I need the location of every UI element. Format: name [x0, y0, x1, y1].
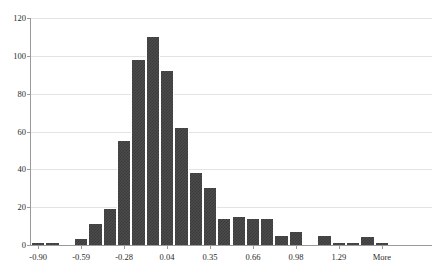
histogram-bar	[88, 224, 102, 245]
histogram-bar	[203, 188, 217, 245]
x-axis-tick-label: 1.29	[331, 253, 346, 262]
y-axis-tick-mark	[27, 18, 30, 19]
histogram-bar	[189, 173, 203, 245]
y-axis-tick-label: 80	[18, 89, 27, 98]
y-axis-tick-label: 60	[18, 127, 27, 136]
histogram-bar	[274, 236, 288, 245]
x-axis-tick-label: 0.04	[160, 253, 175, 262]
x-axis-tick-label: 0.35	[203, 253, 218, 262]
x-axis-tick-mark	[296, 246, 297, 249]
y-axis-tick-label: 40	[18, 165, 27, 174]
histogram-bar	[360, 237, 374, 245]
y-axis-tick-mark	[27, 207, 30, 208]
histogram-bar	[160, 71, 174, 245]
y-axis-tick-label: 100	[13, 52, 26, 61]
y-axis-tick-mark	[27, 94, 30, 95]
histogram-bar	[246, 219, 260, 245]
y-axis-tick-mark	[27, 56, 30, 57]
histogram-bar	[232, 217, 246, 245]
histogram-bar	[260, 219, 274, 245]
y-axis: 020406080100120	[0, 0, 30, 276]
x-axis-tick-mark	[382, 246, 383, 249]
x-axis-tick-mark	[210, 246, 211, 249]
histogram-bar	[217, 219, 231, 245]
histogram-bar	[174, 128, 188, 245]
x-axis-tick-label: -0.90	[29, 253, 47, 262]
histogram-bar	[289, 232, 303, 245]
histogram-bar	[146, 37, 160, 245]
histogram-bar	[317, 236, 331, 245]
x-axis-tick-mark	[81, 246, 82, 249]
y-axis-tick-mark	[27, 132, 30, 133]
y-axis-tick-label: 120	[13, 14, 26, 23]
plot-area	[31, 18, 432, 245]
y-axis-tick-mark	[27, 169, 30, 170]
bars-series	[31, 18, 432, 245]
x-axis-tick-mark	[167, 246, 168, 249]
x-axis-tick-label: -0.59	[72, 253, 90, 262]
x-axis: -0.90-0.59-0.280.040.350.660.981.29More	[31, 249, 432, 271]
histogram-chart: 020406080100120 -0.90-0.59-0.280.040.350…	[0, 0, 435, 276]
x-axis-tick-mark	[124, 246, 125, 249]
histogram-bar	[103, 209, 117, 245]
y-axis-tick-mark	[27, 245, 30, 246]
x-axis-tick-mark	[253, 246, 254, 249]
x-axis-tick-label: 0.98	[289, 253, 304, 262]
x-axis-tick-label: -0.28	[115, 253, 133, 262]
x-axis-line	[31, 245, 432, 246]
x-axis-tick-label: 0.66	[246, 253, 261, 262]
y-axis-tick-label: 0	[22, 241, 26, 250]
y-axis-tick-label: 20	[18, 203, 27, 212]
histogram-bar	[131, 60, 145, 245]
histogram-bar	[117, 141, 131, 245]
x-axis-tick-label: More	[373, 253, 391, 262]
x-axis-tick-mark	[339, 246, 340, 249]
x-axis-tick-mark	[38, 246, 39, 249]
